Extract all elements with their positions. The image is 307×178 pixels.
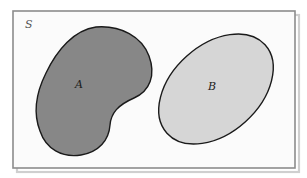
universal-set-label: S <box>25 18 33 31</box>
set-a-label: A <box>74 78 83 91</box>
set-b-label: B <box>207 80 216 93</box>
set-diagram-figure: S A B <box>0 0 307 178</box>
